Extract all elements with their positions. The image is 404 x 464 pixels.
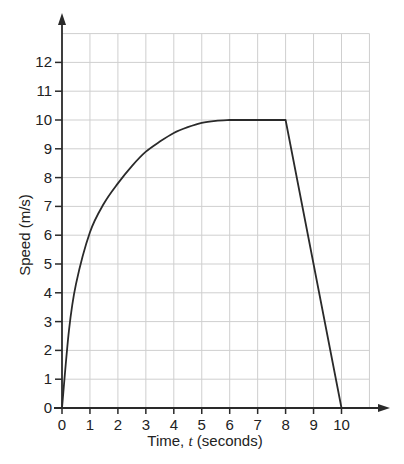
x-tick-label: 0 bbox=[58, 416, 66, 433]
x-tick-label: 5 bbox=[198, 416, 206, 433]
y-tick-label: 4 bbox=[44, 284, 52, 301]
y-tick-label: 1 bbox=[44, 370, 52, 387]
y-tick-label: 5 bbox=[44, 255, 52, 272]
x-tick-label: 8 bbox=[281, 416, 289, 433]
y-tick-label: 0 bbox=[44, 399, 52, 416]
y-tick-label: 8 bbox=[44, 169, 52, 186]
x-tick-label: 10 bbox=[333, 416, 350, 433]
x-tick-label: 7 bbox=[253, 416, 261, 433]
x-axis-ticks: 012345678910 bbox=[58, 408, 350, 433]
axes bbox=[54, 13, 390, 412]
grid-lines bbox=[62, 34, 369, 408]
y-tick-label: 7 bbox=[44, 197, 52, 214]
y-tick-label: 6 bbox=[44, 226, 52, 243]
y-axis-ticks: 0123456789101112 bbox=[35, 53, 62, 416]
x-tick-label: 6 bbox=[226, 416, 234, 433]
y-axis-label: Speed (m/s) bbox=[16, 194, 33, 276]
x-tick-label: 1 bbox=[86, 416, 94, 433]
speed-time-graph: 0123456789101112 012345678910 Time, t (s… bbox=[0, 0, 404, 464]
y-axis-arrow-icon bbox=[58, 13, 66, 25]
y-tick-label: 2 bbox=[44, 341, 52, 358]
y-tick-label: 9 bbox=[44, 140, 52, 157]
y-tick-label: 11 bbox=[36, 82, 52, 99]
x-axis-arrow-icon bbox=[378, 404, 390, 412]
x-tick-label: 3 bbox=[142, 416, 150, 433]
x-tick-label: 2 bbox=[114, 416, 122, 433]
y-tick-label: 12 bbox=[35, 53, 52, 70]
y-tick-label: 3 bbox=[44, 313, 52, 330]
x-tick-label: 9 bbox=[309, 416, 317, 433]
x-tick-label: 4 bbox=[170, 416, 178, 433]
y-tick-label: 10 bbox=[35, 111, 52, 128]
x-axis-label: Time, t (seconds) bbox=[147, 432, 262, 449]
